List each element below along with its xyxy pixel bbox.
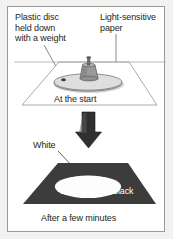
exposed-paper-sheet (23, 163, 156, 204)
label-light-sensitive-paper: Light-sensitive paper (100, 12, 156, 33)
down-arrow-icon (76, 112, 102, 148)
label-black: Black (112, 186, 134, 197)
caption-after-a-few-minutes: After a few minutes (41, 213, 116, 224)
label-plastic-disc: Plastic disc held down with a weight (15, 12, 66, 44)
weight-object (80, 56, 98, 81)
diagram-figure: Plastic disc held down with a weight Lig… (0, 0, 173, 239)
caption-at-the-start: At the start (54, 94, 96, 105)
label-white: White (33, 140, 56, 151)
